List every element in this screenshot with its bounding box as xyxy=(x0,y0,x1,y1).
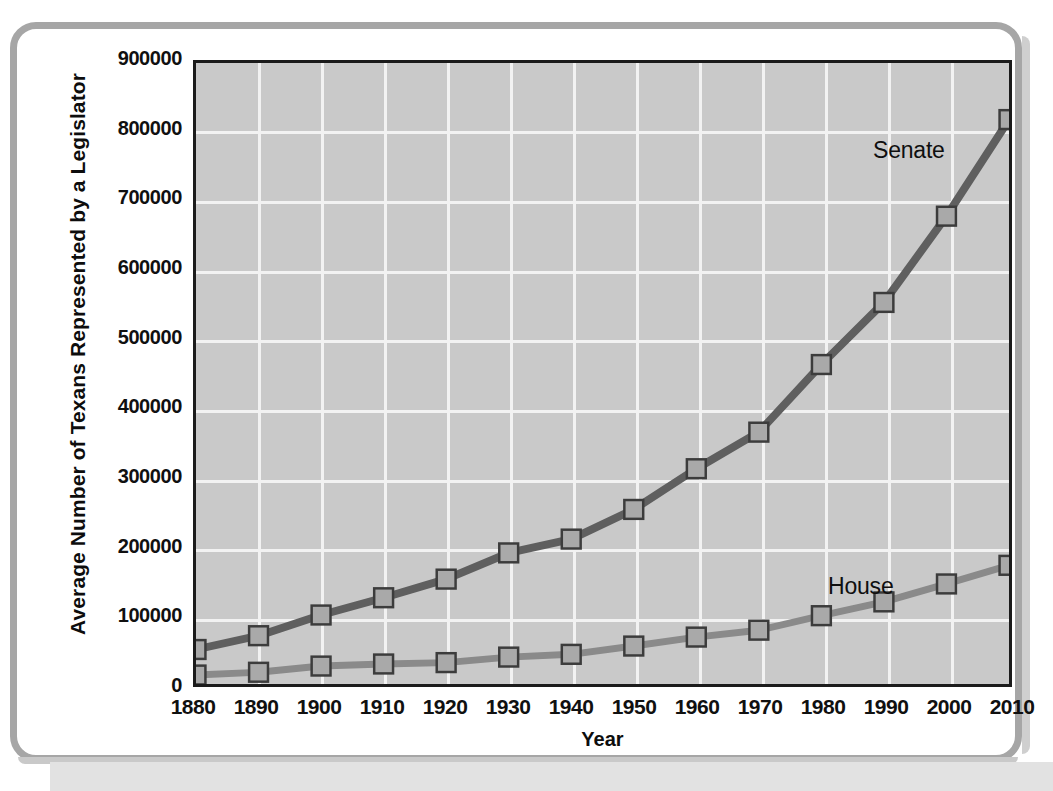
y-axis-tick-label: 300000 xyxy=(78,465,182,488)
data-point-senate-2000 xyxy=(937,207,956,226)
y-axis-tick-label: 900000 xyxy=(78,47,182,70)
data-point-senate-1940 xyxy=(562,530,581,549)
y-axis-tick-label: 600000 xyxy=(78,256,182,279)
x-axis-tick-label: 1890 xyxy=(221,695,291,719)
x-axis-tick-label: 1990 xyxy=(851,695,921,719)
data-point-house-1940 xyxy=(562,645,581,664)
caption-band xyxy=(50,762,1053,791)
y-axis-tick-label: 0 xyxy=(78,674,182,697)
series-line-senate xyxy=(196,120,1009,650)
y-axis-tick-label: 100000 xyxy=(78,604,182,627)
x-axis-tick-label: 2000 xyxy=(914,695,984,719)
data-point-house-1880 xyxy=(196,666,205,684)
x-axis-tick-label: 1960 xyxy=(662,695,732,719)
y-axis-tick-label: 200000 xyxy=(78,535,182,558)
data-point-house-1960 xyxy=(687,628,706,647)
x-axis-tick-label: 1880 xyxy=(158,695,228,719)
y-axis-tick-label: 400000 xyxy=(78,395,182,418)
x-axis-tick-label: 1930 xyxy=(473,695,543,719)
data-point-house-2010 xyxy=(1000,556,1009,575)
data-point-senate-1920 xyxy=(437,570,456,589)
x-axis-title: Year xyxy=(193,728,1012,751)
data-point-house-1900 xyxy=(312,657,331,676)
data-point-senate-1890 xyxy=(249,626,268,645)
series-annotation-house: House xyxy=(828,573,894,600)
data-point-senate-1950 xyxy=(624,500,643,519)
x-axis-tick-label: 1900 xyxy=(284,695,354,719)
data-point-senate-1980 xyxy=(812,355,831,374)
data-point-senate-1930 xyxy=(499,543,518,562)
data-point-senate-1960 xyxy=(687,459,706,478)
data-point-house-1910 xyxy=(374,655,393,674)
data-point-senate-1900 xyxy=(312,606,331,625)
x-axis-tick-label: 1940 xyxy=(536,695,606,719)
x-axis-tick-label: 1920 xyxy=(410,695,480,719)
data-point-house-2000 xyxy=(937,575,956,594)
x-axis-tick-label: 2010 xyxy=(977,695,1047,719)
data-point-house-1970 xyxy=(749,621,768,640)
y-axis-tick-label: 800000 xyxy=(78,117,182,140)
data-point-house-1930 xyxy=(499,648,518,667)
data-point-senate-1970 xyxy=(749,423,768,442)
x-axis-tick-label: 1970 xyxy=(725,695,795,719)
data-point-house-1890 xyxy=(249,663,268,682)
data-point-senate-1910 xyxy=(374,588,393,607)
y-axis-tick-label: 700000 xyxy=(78,186,182,209)
data-point-house-1950 xyxy=(624,637,643,656)
x-axis-tick-label: 1910 xyxy=(347,695,417,719)
series-annotation-senate: Senate xyxy=(873,137,945,164)
data-point-senate-1880 xyxy=(196,640,205,659)
x-axis-tick-label: 1980 xyxy=(788,695,858,719)
data-point-senate-1990 xyxy=(874,293,893,312)
y-axis-title: Average Number of Texans Represented by … xyxy=(66,54,90,654)
frame-shadow-right xyxy=(1022,36,1030,754)
data-point-house-1920 xyxy=(437,653,456,672)
data-point-house-1980 xyxy=(812,606,831,625)
x-axis-tick-label: 1950 xyxy=(599,695,669,719)
y-axis-tick-label: 500000 xyxy=(78,326,182,349)
data-point-senate-2010 xyxy=(1000,110,1009,129)
